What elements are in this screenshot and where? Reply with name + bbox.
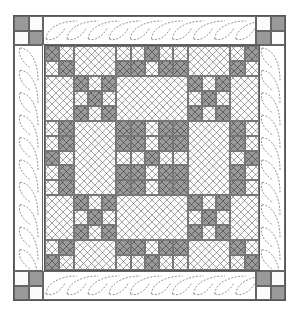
- light-square: [230, 46, 244, 61]
- dark-square: [116, 61, 130, 76]
- quilt-center-grid: [44, 45, 260, 271]
- large-light-block: [45, 195, 74, 240]
- light-square: [159, 151, 173, 166]
- dark-square: [59, 180, 73, 195]
- light-square: [173, 255, 187, 270]
- dark-square: [59, 165, 73, 180]
- light-square: [45, 61, 59, 76]
- dark-square: [159, 61, 173, 76]
- light-square: [102, 91, 116, 106]
- dark-square: [74, 225, 88, 240]
- light-square: [159, 255, 173, 270]
- cable-quilting-icon: [257, 46, 284, 270]
- light-square: [230, 151, 244, 166]
- light-square: [116, 255, 130, 270]
- light-square: [59, 46, 73, 61]
- light-square: [145, 180, 159, 195]
- dark-square: [216, 225, 230, 240]
- light-square: [45, 240, 59, 255]
- dark-square: [188, 76, 202, 91]
- dark-square: [173, 136, 187, 151]
- dark-square: [102, 225, 116, 240]
- dark-square: [159, 240, 173, 255]
- light-square: [230, 255, 244, 270]
- light-square: [202, 195, 216, 210]
- dark-square: [45, 46, 59, 61]
- dark-square: [131, 240, 145, 255]
- light-square: [145, 121, 159, 136]
- light-square: [59, 255, 73, 270]
- dark-square: [102, 195, 116, 210]
- dark-square: [256, 271, 271, 286]
- light-square: [45, 165, 59, 180]
- dark-square: [59, 240, 73, 255]
- dark-square: [216, 195, 230, 210]
- light-square: [88, 76, 102, 91]
- light-square: [14, 31, 29, 46]
- light-square: [202, 225, 216, 240]
- large-light-block: [45, 76, 74, 121]
- dark-square: [116, 180, 130, 195]
- dark-square: [45, 151, 59, 166]
- light-square: [116, 151, 130, 166]
- cropped-caption: [0, 0, 301, 6]
- dark-square: [116, 240, 130, 255]
- dark-square: [256, 31, 271, 46]
- dark-square: [116, 121, 130, 136]
- dark-square: [131, 136, 145, 151]
- dark-square: [245, 255, 259, 270]
- dark-square: [29, 31, 44, 46]
- dark-square: [230, 136, 244, 151]
- light-square: [216, 210, 230, 225]
- dark-square: [116, 136, 130, 151]
- light-square: [88, 225, 102, 240]
- light-square: [145, 61, 159, 76]
- dark-square: [173, 240, 187, 255]
- light-square: [245, 121, 259, 136]
- dark-square: [216, 106, 230, 121]
- light-square: [102, 210, 116, 225]
- dark-square: [145, 255, 159, 270]
- dark-square: [173, 180, 187, 195]
- dark-square: [45, 255, 59, 270]
- dark-square: [230, 121, 244, 136]
- dark-square: [188, 195, 202, 210]
- dark-square: [159, 165, 173, 180]
- light-square: [14, 271, 29, 286]
- light-square: [131, 255, 145, 270]
- large-light-block: [116, 195, 187, 240]
- light-square: [245, 165, 259, 180]
- light-square: [88, 106, 102, 121]
- light-square: [131, 151, 145, 166]
- cable-quilting-icon: [44, 272, 255, 299]
- large-light-block: [230, 76, 259, 121]
- large-light-block: [188, 46, 231, 76]
- light-square: [256, 286, 271, 301]
- large-light-block: [188, 121, 231, 196]
- large-light-block: [188, 240, 231, 270]
- light-square: [74, 210, 88, 225]
- dark-square: [74, 76, 88, 91]
- light-square: [216, 91, 230, 106]
- border-top: [43, 16, 256, 45]
- border-left: [14, 45, 43, 271]
- dark-square: [14, 16, 29, 31]
- light-square: [145, 240, 159, 255]
- dark-square: [202, 91, 216, 106]
- light-square: [59, 151, 73, 166]
- light-square: [245, 136, 259, 151]
- corner-block-bottom-left: [14, 271, 43, 300]
- dark-square: [74, 195, 88, 210]
- dark-square: [14, 286, 29, 301]
- corner-block-top-left: [14, 16, 43, 45]
- border-right: [256, 45, 285, 271]
- dark-square: [230, 61, 244, 76]
- dark-square: [59, 136, 73, 151]
- light-square: [145, 165, 159, 180]
- light-square: [202, 106, 216, 121]
- dark-square: [145, 151, 159, 166]
- light-square: [256, 16, 271, 31]
- dark-square: [159, 180, 173, 195]
- light-square: [188, 210, 202, 225]
- dark-square: [59, 61, 73, 76]
